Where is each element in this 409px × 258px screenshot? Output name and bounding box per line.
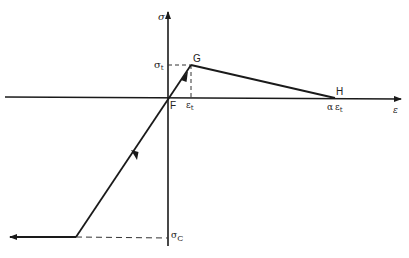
sigma-c-label: σC xyxy=(171,230,183,243)
epsilon-t-label: εt xyxy=(186,100,194,112)
sigma-c-subscript: C xyxy=(177,234,183,243)
loading-arrow-icon xyxy=(181,71,188,82)
epsilon-axis xyxy=(5,97,401,99)
sigma-t-subscript: t xyxy=(161,64,164,72)
unloading-arrow-icon xyxy=(131,150,139,160)
sigma-c-dashed-line xyxy=(76,237,168,238)
softening-branch-line xyxy=(191,65,335,98)
alpha-epsilon-subscript: t xyxy=(340,106,343,114)
point-H-label: H xyxy=(336,86,343,97)
alpha-symbol: α xyxy=(327,102,333,112)
point-F-label: F xyxy=(170,100,176,111)
sigma-t-label: σt xyxy=(154,59,164,72)
epsilon-axis-label: ε xyxy=(393,105,398,115)
sigma-axis-label: σ xyxy=(158,11,166,22)
stress-strain-diagram: σ ε σt G F εt H αεt σC xyxy=(0,0,409,258)
alpha-epsilon-t-label: αεt xyxy=(327,102,343,114)
point-G-label: G xyxy=(193,53,201,64)
epsilon-t-subscript: t xyxy=(191,104,194,112)
